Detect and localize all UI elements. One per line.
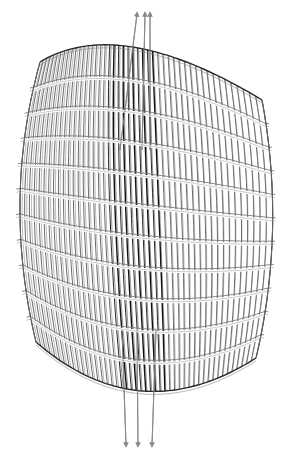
- fin: [49, 52, 65, 363]
- facade-diagram: [0, 0, 295, 455]
- fin: [201, 68, 212, 382]
- facade-drawing: [0, 0, 295, 455]
- band: [16, 188, 275, 218]
- fin: [237, 86, 248, 370]
- fin: [39, 55, 55, 357]
